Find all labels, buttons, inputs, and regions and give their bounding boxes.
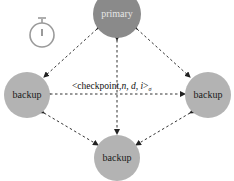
arrow-primary-left bbox=[44, 29, 97, 77]
node-label: backup bbox=[13, 89, 42, 100]
message-subscript: σ bbox=[148, 86, 152, 92]
node-label: backup bbox=[103, 152, 132, 163]
node-backup-left: backup bbox=[4, 72, 50, 118]
node-primary: primary bbox=[93, 0, 141, 38]
arrow-left-bottom bbox=[44, 113, 98, 145]
message-prefix: <checkpoint, bbox=[72, 81, 121, 91]
node-backup-bottom: backup bbox=[94, 135, 140, 181]
node-backup-right: backup bbox=[185, 72, 231, 118]
replication-diagram: primary backup backup backup <checkpoint… bbox=[0, 0, 234, 181]
arrow-right-bottom bbox=[136, 113, 190, 145]
checkpoint-message: <checkpoint,n, d, i>σ bbox=[72, 81, 152, 92]
arrow-primary-right bbox=[137, 29, 190, 77]
stopwatch-icon bbox=[30, 18, 54, 47]
node-label: primary bbox=[101, 8, 133, 19]
message-vars: n, d, i bbox=[121, 81, 143, 91]
node-label: backup bbox=[194, 89, 223, 100]
